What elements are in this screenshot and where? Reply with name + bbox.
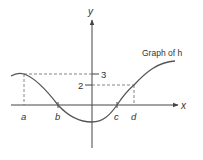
x-point-label-a: a	[21, 111, 26, 122]
graph-of-h-figure: y x Graph of h 3 2 a b c d	[0, 0, 203, 160]
x-point-label-b: b	[55, 111, 60, 122]
y-axis-label: y	[87, 6, 94, 17]
graph-title: Graph of h	[142, 48, 182, 58]
y-tick-label-2: 2	[78, 80, 83, 91]
y-tick-label-3: 3	[101, 69, 106, 80]
x-axis-label: x	[180, 100, 187, 111]
x-point-label-c: c	[114, 111, 119, 122]
graph-title-text: Graph of h	[142, 48, 182, 58]
curve-h	[11, 61, 175, 122]
x-point-label-d: d	[131, 111, 137, 122]
